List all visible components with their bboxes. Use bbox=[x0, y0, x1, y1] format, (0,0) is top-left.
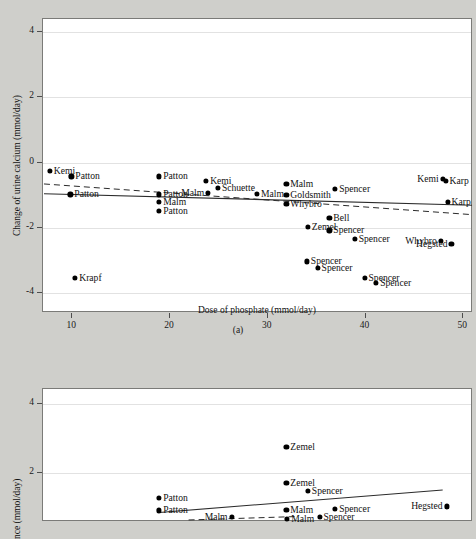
data-point-label: Patton bbox=[163, 506, 188, 516]
data-point-label: Whybro bbox=[290, 199, 321, 209]
data-point-label: Malm bbox=[261, 189, 284, 199]
data-point-label: Zemel bbox=[312, 222, 337, 232]
data-point-label: Patton bbox=[163, 493, 188, 503]
data-point-label: Spencer bbox=[324, 512, 355, 522]
data-point-label: Patton bbox=[163, 172, 188, 182]
data-point-label: Spencer bbox=[312, 486, 343, 496]
data-point-label: Patton bbox=[74, 190, 99, 200]
data-point-label: Schuette bbox=[222, 183, 255, 193]
figure-panel-a: Change of urine calcium (mmol/day) Dose … bbox=[0, 0, 476, 345]
data-point-label: Zemel bbox=[290, 442, 315, 452]
data-point-label: Spencer bbox=[322, 263, 353, 273]
data-point-label: Spencer bbox=[380, 278, 411, 288]
data-point-label: Spencer bbox=[339, 184, 370, 194]
fit-line-dashed bbox=[44, 184, 472, 215]
fit-lines bbox=[0, 374, 476, 521]
figure-panel-b: nce (mmol/day) 42ZemelZemelSpencerPatton… bbox=[0, 374, 476, 521]
data-point-label: Kemi bbox=[417, 174, 438, 184]
data-point-label: Hegsted bbox=[416, 239, 447, 249]
data-point-label: Malm bbox=[291, 514, 314, 524]
data-point-label: Karp bbox=[452, 197, 471, 207]
data-point-label: Malm bbox=[205, 512, 228, 522]
data-point-label: Hegsted bbox=[411, 502, 442, 512]
data-point-label: Patton bbox=[163, 206, 188, 216]
data-point-label: Patton bbox=[75, 172, 100, 182]
data-point-label: Malm bbox=[290, 179, 313, 189]
data-point-label: Malm bbox=[181, 188, 204, 198]
data-point-label: Spencer bbox=[359, 234, 390, 244]
data-point-label: Karp bbox=[450, 176, 469, 186]
data-point-label: Krapf bbox=[79, 273, 101, 283]
